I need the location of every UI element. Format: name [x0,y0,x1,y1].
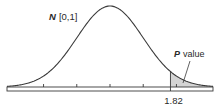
p-value-pointer-line [183,61,190,83]
normal-curve [7,6,213,86]
x-axis [7,87,213,91]
distribution-label: N[0,1] [49,11,77,22]
p-value-text: value [183,49,205,59]
distribution-params: [0,1] [59,11,78,22]
p-value-symbol: P [174,49,181,59]
normal-distribution-chart: N[0,1] Pvalue 1.82 [0,0,219,110]
critical-value-label: 1.82 [164,95,183,106]
p-value-label: Pvalue [174,49,205,59]
distribution-symbol: N [49,11,57,22]
